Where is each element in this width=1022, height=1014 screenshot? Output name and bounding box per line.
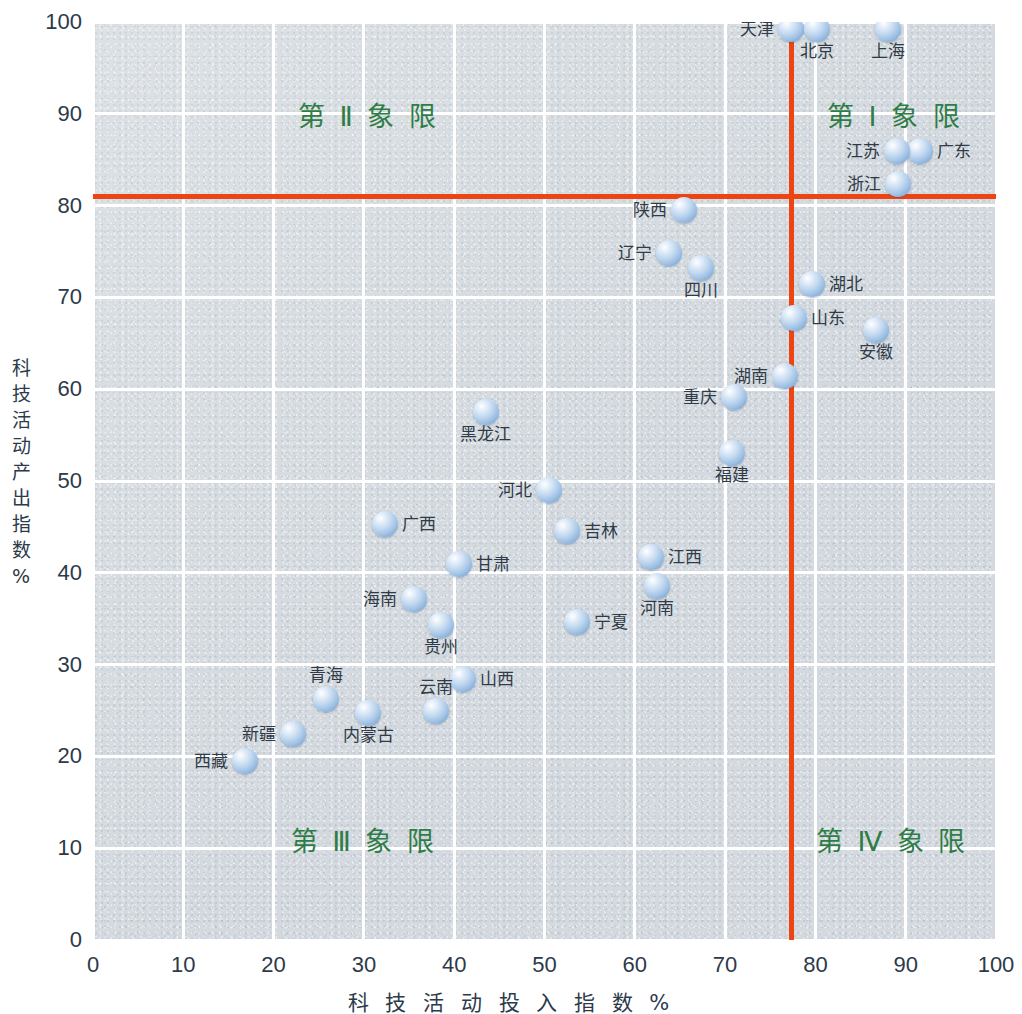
gridline-vertical [995,22,997,940]
data-point-marker[interactable] [875,22,901,42]
data-point-label: 上海 [871,43,905,60]
y-tick-label: 20 [20,743,82,769]
x-tick-label: 100 [978,952,1015,978]
data-point-marker[interactable] [885,171,911,197]
x-axis-title: 科 技 活 动 投 入 指 数 % [0,986,1022,1014]
data-point-marker[interactable] [671,197,697,223]
data-point-marker[interactable] [564,609,590,635]
y-axis-title-char: 技 [8,381,34,407]
data-point-marker[interactable] [280,721,306,747]
y-axis-title-char: 数 [8,537,34,563]
data-point-marker[interactable] [721,384,747,410]
data-point-label: 甘肃 [476,555,510,572]
data-point-label: 湖北 [829,275,863,292]
data-point-marker[interactable] [781,305,807,331]
gridline-horizontal [93,204,996,207]
y-tick-label: 10 [20,835,82,861]
threshold-line-vertical [789,22,794,940]
data-point-label: 山西 [480,671,514,688]
y-tick-label: 80 [20,193,82,219]
data-point-marker[interactable] [688,255,714,281]
data-point-marker[interactable] [313,686,339,712]
data-point-label: 内蒙古 [343,727,394,744]
data-point-marker[interactable] [907,138,933,164]
gridline-vertical [453,22,456,940]
data-point-marker[interactable] [355,700,381,726]
gridline-vertical [272,22,275,940]
data-point-label: 河南 [640,600,674,617]
data-point-label: 北京 [800,43,834,60]
plot-area: 第 Ⅱ 象 限第 Ⅰ 象 限第 Ⅲ 象 限第 Ⅳ 象 限 天津北京上海广东江苏浙… [93,22,996,940]
data-point-label: 河北 [498,482,532,499]
data-point-marker[interactable] [804,22,830,42]
y-axis-title-char: 科 [8,355,34,381]
gridline-vertical [814,22,817,940]
y-axis-title-char: 活 [8,407,34,433]
x-tick-label: 30 [352,952,376,978]
gridline-vertical [362,22,365,940]
data-point-marker[interactable] [719,440,745,466]
data-point-label: 辽宁 [618,245,652,262]
gridline-horizontal [93,22,996,24]
data-point-label: 江西 [668,549,702,566]
gridline-horizontal [93,939,996,941]
data-point-marker[interactable] [232,748,258,774]
data-point-marker[interactable] [428,612,454,638]
data-point-label: 西藏 [194,752,228,769]
data-point-marker[interactable] [446,551,472,577]
y-tick-label: 70 [20,284,82,310]
data-point-marker[interactable] [473,399,499,425]
x-tick-label: 40 [442,952,466,978]
scatter-chart: 第 Ⅱ 象 限第 Ⅰ 象 限第 Ⅲ 象 限第 Ⅳ 象 限 天津北京上海广东江苏浙… [0,0,1022,1014]
data-point-marker[interactable] [372,511,398,537]
data-point-label: 海南 [363,591,397,608]
data-point-marker[interactable] [656,240,682,266]
data-point-label: 天津 [740,22,774,38]
threshold-line-horizontal [93,194,996,199]
data-point-marker[interactable] [863,317,889,343]
data-point-marker[interactable] [554,518,580,544]
x-tick-label: 80 [803,952,827,978]
y-tick-label: 0 [20,927,82,953]
y-axis-title: 科技活动产出指数% [8,355,34,589]
y-axis-title-char: 产 [8,459,34,485]
data-point-marker[interactable] [644,573,670,599]
data-point-label: 广西 [402,516,436,533]
gridline-vertical [633,22,636,940]
data-point-marker[interactable] [778,22,804,42]
data-point-marker[interactable] [799,271,825,297]
data-point-marker[interactable] [423,698,449,724]
data-point-label: 湖南 [734,368,768,385]
data-point-label: 安徽 [859,344,893,361]
y-tick-label: 30 [20,652,82,678]
data-point-label: 重庆 [683,388,717,405]
quadrant-label-4: 第 Ⅳ 象 限 [816,820,969,859]
y-axis-title-char: 指 [8,511,34,537]
gridline-horizontal [93,388,996,391]
data-point-marker[interactable] [450,666,476,692]
quadrant-label-1: 第 Ⅱ 象 限 [298,94,439,133]
data-point-marker[interactable] [884,138,910,164]
x-tick-label: 0 [87,952,99,978]
data-point-label: 青海 [309,667,343,684]
data-point-label: 四川 [684,282,718,299]
quadrant-label-2: 第 Ⅰ 象 限 [827,94,963,133]
data-point-marker[interactable] [401,586,427,612]
data-point-marker[interactable] [772,363,798,389]
y-axis-title-char: 出 [8,485,34,511]
data-point-label: 福建 [715,467,749,484]
x-tick-label: 70 [713,952,737,978]
data-point-marker[interactable] [638,544,664,570]
x-tick-label: 20 [261,952,285,978]
data-point-label: 新疆 [242,726,276,743]
data-point-label: 江苏 [846,143,880,160]
gridline-horizontal [93,296,996,299]
data-point-label: 贵州 [424,639,458,656]
data-point-label: 广东 [937,142,971,159]
data-point-label: 宁夏 [594,614,628,631]
y-axis-title-char: 动 [8,433,34,459]
data-point-marker[interactable] [536,477,562,503]
data-point-label: 山东 [811,309,845,326]
y-axis-title-char: % [8,563,34,589]
quadrant-label-3: 第 Ⅲ 象 限 [291,820,437,859]
